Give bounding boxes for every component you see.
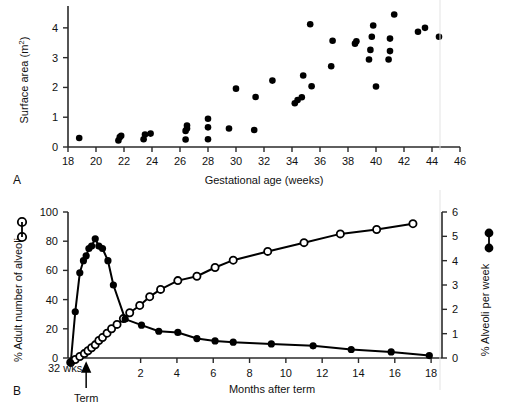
panel-b-x-tick-label: 4 [174, 367, 180, 379]
series-marker-filled-circle [155, 328, 162, 335]
series-marker-open-circle [113, 321, 120, 328]
series-marker-open-circle [230, 257, 237, 264]
series-marker-filled-circle [104, 257, 111, 264]
scatter-point [300, 72, 307, 79]
panel-a-x-tick-label: 40 [370, 155, 382, 167]
scatter-point [205, 136, 212, 143]
series-line-alveoli-rate [71, 239, 430, 363]
series-marker-filled-circle [92, 235, 99, 242]
scatter-point [76, 135, 83, 142]
series-marker-filled-circle [110, 281, 117, 288]
scatter-point [269, 77, 276, 84]
panel-a-x-tick-label: 34 [286, 155, 298, 167]
scatter-point [373, 83, 380, 90]
series-marker-filled-circle [193, 335, 200, 342]
scatter-point [308, 83, 315, 90]
panel-b-svg: % Adult number of alveoli % Alveoli per … [0, 190, 508, 420]
panel-a-svg: Surface area (m2) 1820222426283032343638… [0, 0, 508, 190]
scatter-point [329, 37, 336, 44]
scatter-point [147, 130, 154, 137]
scatter-point [233, 85, 240, 92]
panel-a-x-tick-label: 30 [230, 155, 242, 167]
panel-b-x-tick-label: 12 [316, 367, 328, 379]
panel-a-x-tick-label: 38 [342, 155, 354, 167]
series-marker-filled-circle [122, 315, 129, 322]
panel-b-left-tick-label: 100 [40, 206, 58, 218]
scatter-point [328, 63, 335, 70]
term-arrow-head [82, 363, 90, 372]
panel-b-x-tick-label: 14 [352, 367, 364, 379]
scatter-point [422, 25, 429, 32]
panel-b-x-tick-label: 2 [138, 367, 144, 379]
panel-a-x-tick-label: 20 [90, 155, 102, 167]
panel-b-right-tick-label: 6 [452, 206, 458, 218]
panel-a-x-tick-label: 24 [146, 155, 158, 167]
series-marker-open-circle [193, 273, 200, 280]
panel-b-left-tick-label: 40 [46, 294, 58, 306]
figure-root: Surface area (m2) 1820222426283032343638… [0, 0, 508, 420]
scatter-point [142, 131, 149, 138]
panel-a-x-tick-label: 28 [202, 155, 214, 167]
panel-a-x-tick-label: 46 [454, 155, 466, 167]
scatter-point [299, 94, 306, 101]
panel-a-scatter: Surface area (m2) 1820222426283032343638… [0, 0, 508, 190]
panel-b-left-tick-label: 20 [46, 323, 58, 335]
panel-b-right-tick-label: 2 [452, 303, 458, 315]
series-marker-filled-circle [348, 346, 355, 353]
series-marker-open-circle [157, 286, 164, 293]
svg-text:Surface area (m2): Surface area (m2) [17, 37, 30, 124]
panel-b-line: % Adult number of alveoli % Alveoli per … [0, 190, 508, 420]
panel-a-axes: 18202224262830323436384042444601234 [52, 6, 466, 167]
series-marker-filled-circle [426, 352, 433, 359]
panel-b-right-tick-label: 0 [452, 352, 458, 364]
series-marker-open-circle [409, 220, 416, 227]
panel-a-x-tick-label: 44 [426, 155, 438, 167]
series-marker-filled-circle [388, 348, 395, 355]
panel-b-x-tick-label: 10 [280, 367, 292, 379]
series-marker-filled-circle [83, 252, 90, 259]
scatter-point [251, 127, 258, 134]
panel-b-left-tick-label: 80 [46, 235, 58, 247]
panel-a-x-tick-label: 36 [314, 155, 326, 167]
scatter-point [387, 35, 394, 42]
scatter-point [118, 132, 125, 139]
term-label: Term [74, 392, 98, 404]
panel-a-y-axis-title: Surface area (m2) [17, 37, 30, 124]
panel-a-y-tick-label: 1 [52, 111, 58, 123]
scatter-point [391, 11, 398, 18]
series-marker-filled-circle [230, 339, 237, 346]
series-marker-open-circle [337, 230, 344, 237]
panel-a-y-tick-label: 2 [52, 81, 58, 93]
scatter-point [205, 115, 212, 122]
series-marker-filled-circle [76, 269, 83, 276]
panel-a-x-tick-label: 42 [398, 155, 410, 167]
panel-b-left-legend-open-circle-icon [18, 218, 26, 241]
scatter-point [367, 47, 374, 54]
series-marker-open-circle [136, 302, 143, 309]
scatter-point [353, 38, 360, 45]
series-marker-open-circle [211, 264, 218, 271]
scatter-point [387, 48, 394, 55]
series-marker-open-circle [126, 309, 133, 316]
scatter-point [385, 56, 392, 63]
panel-b-x-tick-label: 16 [389, 367, 401, 379]
panel-b-x-tick-label: 8 [246, 367, 252, 379]
panel-b-origin-label: 32 wks [48, 362, 83, 374]
panel-b-right-tick-label: 3 [452, 279, 458, 291]
scatter-point [415, 28, 422, 35]
scatter-point [226, 125, 233, 132]
panel-b-right-tick-label: 1 [452, 328, 458, 340]
panel-a-y-tick-label: 3 [52, 52, 58, 64]
series-marker-filled-circle [138, 322, 145, 329]
panel-b-left-axis-title: % Adult number of alveoli [12, 238, 24, 362]
panel-a-x-tick-label: 18 [62, 155, 74, 167]
panel-b-right-tick-label: 4 [452, 255, 458, 267]
panel-b-left-tick-label: 60 [46, 264, 58, 276]
scatter-point [436, 34, 443, 41]
panel-b-right-tick-label: 5 [452, 230, 458, 242]
panel-b-letter: B [13, 384, 21, 398]
series-marker-filled-circle [268, 340, 275, 347]
series-marker-filled-circle [72, 308, 79, 315]
scatter-point [307, 21, 314, 28]
scatter-point [184, 122, 191, 129]
